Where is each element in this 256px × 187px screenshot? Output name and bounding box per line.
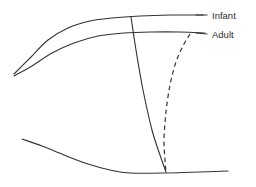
label-infant: Infant [212, 10, 236, 21]
curve-lower-baseline [22, 139, 228, 173]
diagram-canvas: Infant Adult [0, 0, 256, 187]
flow-volume-diagram: Infant Adult [0, 0, 256, 187]
curves-group [14, 15, 228, 173]
curve-adult-descending-limb [164, 34, 190, 172]
curve-adult [14, 32, 205, 76]
labels-group: Infant Adult [212, 10, 236, 40]
leader-lines-group [196, 15, 207, 34]
curve-infant-descending-limb [131, 17, 166, 172]
label-adult: Adult [212, 29, 234, 40]
